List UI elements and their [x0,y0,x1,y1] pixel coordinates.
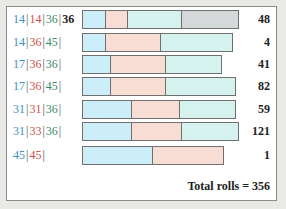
label-value: 36 [29,79,41,93]
bar-segment [83,34,106,51]
row-count: 59 [258,102,270,117]
row-count: 121 [252,124,270,139]
stacked-bar [82,33,233,52]
label-separator: | [42,79,44,93]
label-value: 17 [13,57,25,71]
bar-segment [83,123,132,140]
label-separator: | [42,102,44,116]
label-value: 36 [46,102,58,116]
stacked-bar [82,55,222,74]
label-separator: | [42,148,44,162]
chart-row: 45|45|1 [7,146,276,165]
stacked-bar [82,10,239,29]
label-value: 45 [13,148,25,162]
stacked-bar [82,100,236,119]
row-label: 31|33|36| [13,124,62,139]
bar-segment [166,56,221,73]
row-count: 82 [258,79,270,94]
label-value: 45 [29,148,41,162]
bar-segment [83,56,111,73]
bar-segment [83,147,153,164]
label-value: 36 [46,124,58,138]
label-value: 36 [62,12,74,26]
row-label: 31|31|36| [13,102,62,117]
label-separator: | [42,124,44,138]
total-rolls-label: Total rolls = 356 [187,179,270,194]
bar-segment [182,123,238,140]
bar-segment [83,11,106,28]
label-value: 36 [46,12,58,26]
label-separator: | [42,35,44,49]
label-value: 36 [29,57,41,71]
bar-segment [182,11,238,28]
label-separator: | [59,102,61,116]
label-separator: | [59,35,61,49]
label-separator: | [59,79,61,93]
stacked-bar [82,77,236,96]
label-value: 31 [13,124,25,138]
row-label: 17|36|45| [13,79,62,94]
chart-row: 17|36|36|41 [7,55,276,74]
bar-segment [106,11,128,28]
chart-row: 14|14|36|3648 [7,10,276,29]
label-separator: | [59,57,61,71]
bar-segment [83,101,132,118]
bar-segment [132,123,183,140]
bar-segment [83,78,111,95]
label-value: 45 [46,35,58,49]
row-label: 14|14|36|36 [13,12,74,27]
chart-row: 14|36|45|4 [7,33,276,52]
row-count: 41 [258,57,270,72]
bar-segment [132,101,181,118]
label-value: 45 [46,79,58,93]
bar-segment [153,147,224,164]
label-value: 14 [13,35,25,49]
bar-segment [180,101,235,118]
bar-segment [128,11,183,28]
label-separator: | [42,57,44,71]
chart-row: 31|33|36|121 [7,122,276,141]
label-value: 31 [29,102,41,116]
label-separator: | [59,124,61,138]
bar-segment [161,34,232,51]
chart-panel: 14|14|36|364814|36|45|417|36|36|4117|36|… [6,6,277,201]
bar-segment [166,78,235,95]
label-value: 36 [46,57,58,71]
label-separator: | [42,12,44,26]
label-value: 33 [29,124,41,138]
bar-segment [111,56,167,73]
label-value: 14 [13,12,25,26]
row-count: 1 [264,148,270,163]
row-label: 14|36|45| [13,35,62,50]
row-count: 4 [264,35,270,50]
stacked-bar [82,122,239,141]
label-separator: | [59,12,61,26]
chart-row: 17|36|45|82 [7,77,276,96]
row-label: 17|36|36| [13,57,62,72]
label-value: 36 [29,35,41,49]
stacked-bar [82,146,224,165]
bar-segment [106,34,162,51]
row-count: 48 [258,12,270,27]
bar-segment [111,78,167,95]
label-value: 31 [13,102,25,116]
chart-row: 31|31|36|59 [7,100,276,119]
row-label: 45|45| [13,148,46,163]
label-value: 17 [13,79,25,93]
label-value: 14 [29,12,41,26]
